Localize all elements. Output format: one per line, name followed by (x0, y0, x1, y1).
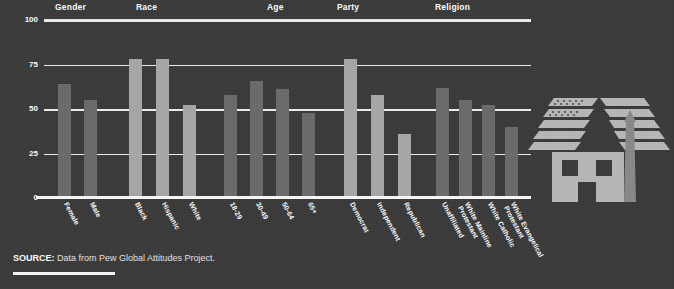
bar-30-49 (250, 81, 263, 198)
bar-white (183, 105, 196, 198)
bar-independent (371, 95, 384, 198)
bar-18-29 (224, 95, 237, 198)
bar-male (84, 100, 97, 198)
group-header-religion: Religion (435, 2, 470, 12)
bar-white-evangelical-protestant (505, 127, 518, 198)
bar-female (58, 84, 71, 198)
bar-label-50-64: 50-64 (280, 201, 296, 221)
bar-republican (398, 134, 411, 198)
bar-black (129, 59, 142, 198)
gridline-100 (44, 20, 531, 22)
bar-label-female: Female (62, 201, 81, 227)
group-header-race: Race (136, 2, 157, 12)
bar-label-republican: Republican (402, 201, 427, 239)
bar-50-64 (276, 89, 289, 198)
y-tick-0: 0 (12, 194, 38, 202)
bar-label-male: Male (88, 201, 103, 219)
bar-white-mainline-protestant (459, 100, 472, 198)
y-tick-100: 100 (12, 16, 38, 24)
plot-area (44, 20, 531, 198)
source-underline-rule (13, 272, 115, 275)
bar-democrat (344, 59, 357, 198)
bar-white-catholic (482, 105, 495, 198)
bar-chart: GenderRaceAgePartyReligion 1007550250 Fe… (0, 0, 674, 250)
y-axis-labels: 1007550250 (8, 20, 38, 198)
source-text: SOURCE: Data from Pew Global Attitudes P… (13, 253, 215, 263)
group-header-gender: Gender (55, 2, 86, 12)
bar-65+ (302, 113, 315, 198)
bar-label-black: Black (133, 201, 149, 222)
gridline-75 (44, 65, 531, 67)
bar-label-democrat: Democrat (348, 201, 371, 234)
bar-label-30-49: 30-49 (254, 201, 270, 221)
y-tick-75: 75 (12, 61, 38, 69)
y-tick-50: 50 (12, 105, 38, 113)
bar-hispanic (156, 59, 169, 198)
bar-label-independent: Independent (375, 201, 402, 242)
bar-label-hispanic: Hispanic (160, 201, 181, 231)
source-block: SOURCE: Data from Pew Global Attitudes P… (13, 253, 215, 275)
bar-label-white: White (187, 201, 203, 222)
bar-unaffiliated (436, 88, 449, 198)
source-label: SOURCE: (13, 253, 55, 263)
bar-label-65+: 65+ (306, 201, 319, 216)
group-header-age: Age (267, 2, 284, 12)
house-with-american-flag-roof-icon (524, 96, 670, 202)
x-axis-baseline (36, 196, 531, 199)
source-body: Data from Pew Global Attitudes Project. (55, 253, 216, 263)
y-tick-25: 25 (12, 150, 38, 158)
bar-label-18-29: 18-29 (228, 201, 244, 221)
group-header-party: Party (337, 2, 359, 12)
